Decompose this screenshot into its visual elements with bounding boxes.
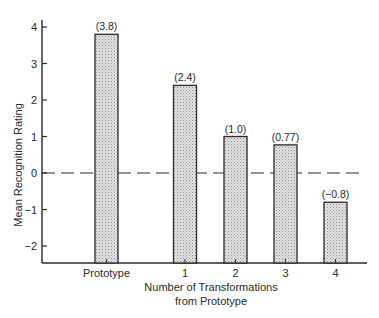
y-tick-label: 4 (31, 21, 37, 33)
x-tick-label: Prototype (83, 267, 130, 279)
y-tick-label: 2 (31, 94, 37, 106)
y-axis-title: Mean Recognition Rating (12, 103, 24, 227)
value-label: (0.77) (272, 131, 299, 143)
y-tick-label: 3 (31, 58, 37, 70)
bar-1 (174, 85, 197, 263)
x-axis-title: from Prototype (175, 295, 247, 307)
value-label: (1.0) (225, 123, 247, 135)
x-axis-title: Number of Transformations (144, 281, 278, 293)
x-tick-label: 2 (232, 267, 238, 279)
y-tick-label: −2 (24, 240, 37, 252)
x-tick-label: 4 (332, 267, 338, 279)
value-label: (3.8) (96, 20, 118, 32)
y-axis: 43210−1−2 (24, 20, 47, 263)
y-tick-label: 1 (31, 131, 37, 143)
y-tick-label: 0 (31, 167, 37, 179)
bars (95, 34, 347, 263)
bar-chart: 43210−1−2 (3.8)(2.4)(1.0)(0.77)(−0.8) Pr… (0, 0, 379, 318)
value-label: (2.4) (174, 71, 196, 83)
bar-2 (224, 137, 247, 264)
y-tick-label: −1 (24, 204, 37, 216)
value-label: (−0.8) (322, 188, 350, 200)
x-tick-label: 1 (182, 267, 188, 279)
x-tick-labels: Prototype1234 (83, 267, 339, 279)
bar-prototype (95, 34, 118, 263)
x-tick-label: 3 (282, 267, 288, 279)
bar-3 (274, 145, 297, 263)
bar-4 (324, 202, 347, 263)
